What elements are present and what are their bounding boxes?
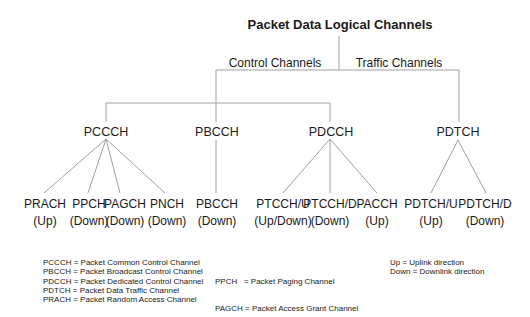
leaf-name: PACCH: [356, 196, 397, 213]
leaf-direction: (Down): [458, 213, 511, 230]
leaf-direction: (Down): [303, 213, 356, 230]
legend-entry: PPCH = Packet Paging Channel: [215, 277, 397, 286]
legend-entry: PDCCH = Packet Dedicated Control Channel: [43, 277, 203, 286]
leaf-ptcch-d: PTCCH/D (Down): [303, 196, 356, 230]
leaf-direction: (Up): [24, 213, 66, 230]
leaf-direction: (Down): [70, 213, 109, 230]
leaf-name: PNCH: [148, 196, 187, 213]
leaf-name: PDTCH/D: [458, 196, 511, 213]
leaf-pbcch: PBCCH (Down): [196, 196, 238, 230]
leaf-pacch: PACCH (Up): [356, 196, 397, 230]
leaf-ppch: PPCH (Down): [70, 196, 109, 230]
branch-control-channels: Control Channels: [229, 57, 322, 69]
node-pdcch: PDCCH: [309, 126, 353, 139]
leaf-name: PBCCH: [196, 196, 238, 213]
legend-entry: PBCCH = Packet Broadcast Control Channel: [43, 267, 203, 276]
leaf-direction: (Down): [148, 213, 187, 230]
legend-column-1: PCCCH = Packet Common Control Channel PB…: [43, 258, 203, 304]
leaf-name: PPCH: [70, 196, 109, 213]
leaf-pagch: PAGCH (Down): [104, 196, 146, 230]
leaf-name: PTCCH/D: [303, 196, 356, 213]
node-pccch: PCCCH: [84, 126, 128, 139]
leaf-name: PDTCH/U: [404, 196, 457, 213]
node-pbcch: PBCCH: [195, 126, 239, 139]
leaf-pdtch-u: PDTCH/U (Up): [404, 196, 457, 230]
legend-column-2: PPCH = Packet Paging Channel PAGCH = Pac…: [215, 258, 397, 317]
leaf-direction: (Down): [196, 213, 238, 230]
legend-column-3: Up = Uplink direction Down = Downlink di…: [390, 258, 485, 277]
leaf-direction: (Down): [104, 213, 146, 230]
legend-entry: PAGCH = Packet Access Grant Channel: [215, 304, 397, 313]
leaf-prach: PRACH (Up): [24, 196, 66, 230]
leaf-name: PRACH: [24, 196, 66, 213]
branch-traffic-channels: Traffic Channels: [356, 57, 443, 69]
legend-entry: PRACH = Packet Random Access Channel: [43, 295, 203, 304]
legend-entry: PCCCH = Packet Common Control Channel: [43, 258, 203, 267]
legend-entry: PDTCH = Packet Data Traffic Channel: [43, 286, 203, 295]
leaf-pdtch-d: PDTCH/D (Down): [458, 196, 511, 230]
leaf-name: PAGCH: [104, 196, 146, 213]
legend-entry: Down = Downlink direction: [390, 267, 485, 276]
node-pdtch: PDTCH: [436, 126, 479, 139]
leaf-direction: (Up): [404, 213, 457, 230]
legend-entry: Up = Uplink direction: [390, 258, 485, 267]
leaf-direction: (Up): [356, 213, 397, 230]
leaf-pnch: PNCH (Down): [148, 196, 187, 230]
diagram-title: Packet Data Logical Channels: [248, 18, 433, 31]
